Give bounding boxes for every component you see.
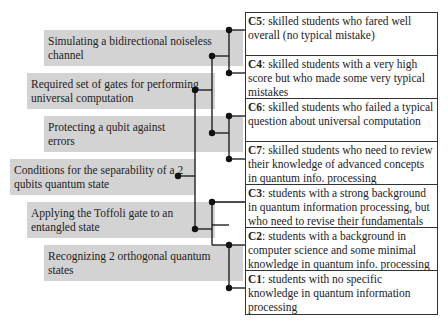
tree-diagram: Simulating a bidirectional noiseless cha… — [0, 0, 448, 323]
tree-connectors — [0, 0, 448, 323]
